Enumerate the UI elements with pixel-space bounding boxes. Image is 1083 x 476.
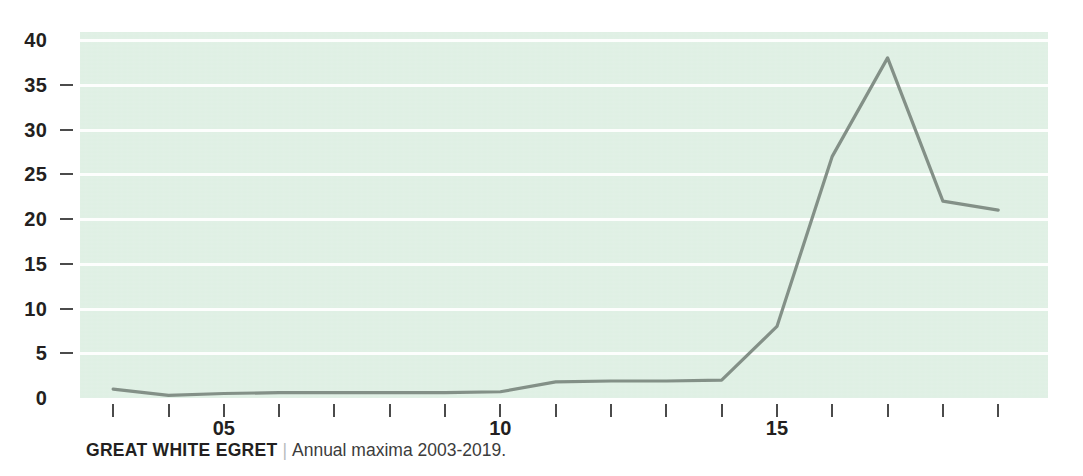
y-tick-label-25: 25 [3, 164, 47, 184]
gridline-y-30 [80, 129, 1048, 132]
plot-texture [80, 32, 1048, 398]
caption-subtitle: Annual maxima 2003-2019. [292, 440, 506, 460]
x-tick-label-5: 05 [194, 418, 254, 438]
x-tick-mark-8 [389, 404, 391, 417]
x-tick-mark-17 [887, 404, 889, 417]
y-tick-label-30: 30 [3, 120, 47, 140]
x-tick-mark-3 [112, 404, 114, 417]
y-tick-label-20: 20 [3, 209, 47, 229]
x-tick-mark-11 [555, 404, 557, 417]
x-tick-mark-16 [831, 404, 833, 417]
gridline-y-40 [80, 39, 1048, 42]
x-tick-label-10: 10 [470, 418, 530, 438]
gridline-y-35 [80, 84, 1048, 87]
x-tick-mark-14 [721, 404, 723, 417]
x-tick-mark-6 [278, 404, 280, 417]
x-tick-mark-5 [223, 404, 225, 417]
chart-figure: 0510152025303540 051015 GREAT WHITE EGRE… [0, 0, 1083, 476]
gridline-y-20 [80, 218, 1048, 221]
x-tick-mark-7 [333, 404, 335, 417]
x-tick-mark-4 [168, 404, 170, 417]
gridline-y-15 [80, 263, 1048, 266]
x-tick-label-15: 15 [747, 418, 807, 438]
x-tick-mark-19 [997, 404, 999, 417]
y-tick-mark-10 [60, 308, 73, 310]
y-tick-label-40: 40 [3, 30, 47, 50]
caption: GREAT WHITE EGRET|Annual maxima 2003-201… [86, 440, 506, 461]
x-tick-mark-10 [499, 404, 501, 417]
gridline-y-25 [80, 173, 1048, 176]
y-tick-mark-25 [60, 173, 73, 175]
y-tick-label-5: 5 [3, 343, 47, 363]
x-tick-mark-9 [444, 404, 446, 417]
x-tick-mark-18 [942, 404, 944, 417]
y-tick-label-10: 10 [3, 299, 47, 319]
y-tick-mark-35 [60, 84, 73, 86]
y-tick-mark-30 [60, 129, 73, 131]
caption-separator: | [277, 440, 292, 460]
x-tick-mark-15 [776, 404, 778, 417]
y-tick-label-0: 0 [3, 388, 47, 408]
y-tick-mark-5 [60, 352, 73, 354]
y-tick-label-15: 15 [3, 254, 47, 274]
y-tick-label-35: 35 [3, 75, 47, 95]
y-tick-mark-20 [60, 218, 73, 220]
y-tick-mark-15 [60, 263, 73, 265]
x-tick-mark-13 [665, 404, 667, 417]
gridline-y-10 [80, 308, 1048, 311]
caption-title: GREAT WHITE EGRET [86, 440, 277, 460]
gridline-y-5 [80, 352, 1048, 355]
plot-area [80, 32, 1048, 398]
x-tick-mark-12 [610, 404, 612, 417]
